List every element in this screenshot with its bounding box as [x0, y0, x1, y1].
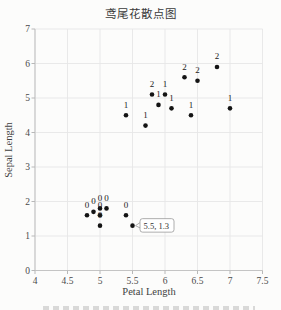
point-class-label: 0 [98, 200, 103, 210]
y-tick-label: 0 [25, 266, 30, 276]
data-point [182, 75, 187, 80]
data-point [143, 123, 148, 128]
point-class-label: 2 [195, 65, 200, 75]
x-tick-label: 6.5 [192, 276, 204, 286]
point-class-label: 1 [189, 100, 194, 110]
point-class-label: 1 [124, 100, 129, 110]
point-class-label: 1 [143, 110, 148, 120]
data-point [104, 206, 109, 211]
data-point [215, 65, 220, 70]
y-tick-label: 4 [25, 128, 30, 138]
point-class-label: 0 [98, 210, 103, 220]
point-class-label: 1 [156, 89, 161, 99]
point-class-label: 2 [182, 62, 187, 72]
y-tick-label: 7 [25, 24, 30, 34]
data-point [169, 106, 174, 111]
point-class-label: 1 [228, 93, 233, 103]
x-tick-label: 6 [163, 276, 168, 286]
data-point [195, 78, 200, 83]
annotation-text: 5.5, 1.3 [144, 221, 170, 231]
y-tick-label: 1 [25, 231, 30, 241]
x-tick-label: 5 [98, 276, 103, 286]
iris-scatter-figure: 鸢尾花散点图 Sepal Length 44.555.566.577.50123… [0, 0, 281, 310]
x-tick-label: 7.5 [257, 276, 269, 286]
data-point [130, 223, 135, 228]
scatter-plot-area: 44.555.566.577.5012345670000000111111122… [0, 0, 281, 310]
data-point [85, 213, 90, 218]
data-point [189, 113, 194, 118]
x-axis-label: Petal Length [35, 286, 263, 297]
data-point [124, 213, 129, 218]
data-point [91, 210, 96, 215]
data-point [124, 113, 129, 118]
data-point [228, 106, 233, 111]
point-class-label: 0 [85, 200, 90, 210]
data-point [150, 92, 155, 97]
x-tick-label: 4 [33, 276, 38, 286]
point-class-label: 1 [163, 79, 168, 89]
x-tick-label: 7 [228, 276, 233, 286]
data-point [156, 103, 161, 108]
point-class-label: 0 [91, 196, 96, 206]
y-tick-label: 5 [25, 93, 30, 103]
point-class-label: 0 [104, 193, 109, 203]
point-class-label: 2 [215, 51, 220, 61]
y-tick-label: 6 [25, 59, 30, 69]
point-class-label: 2 [150, 79, 155, 89]
x-tick-label: 5.5 [127, 276, 139, 286]
y-tick-label: 2 [25, 197, 30, 207]
point-class-label: 1 [169, 93, 174, 103]
point-class-label: 0 [124, 200, 129, 210]
data-point [98, 223, 103, 228]
x-tick-label: 4.5 [62, 276, 74, 286]
data-point [163, 92, 168, 97]
y-tick-label: 3 [25, 162, 30, 172]
cropped-caption-text [43, 306, 255, 310]
